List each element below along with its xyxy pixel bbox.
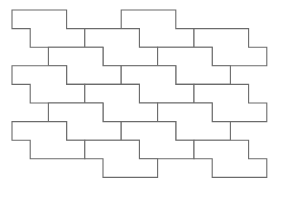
tile [194, 140, 267, 177]
tiling-diagram [0, 0, 283, 197]
tile [12, 10, 85, 47]
tiles-group [12, 10, 267, 177]
